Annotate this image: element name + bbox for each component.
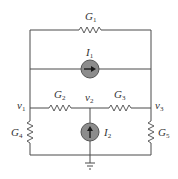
g3-label: G3 bbox=[114, 88, 126, 102]
i1-branch bbox=[30, 60, 151, 78]
i1-current-source-icon bbox=[81, 60, 99, 78]
i2-current-source-icon bbox=[81, 123, 99, 141]
v2-label: v2 bbox=[85, 91, 94, 105]
g2-label: G2 bbox=[54, 88, 66, 102]
g4-resistor-icon bbox=[27, 121, 33, 143]
g3-resistor-icon bbox=[109, 105, 131, 111]
g5-resistor-icon bbox=[148, 121, 154, 143]
g1-resistor-icon bbox=[79, 27, 101, 33]
g5-label: G5 bbox=[158, 126, 170, 140]
g4-label: G4 bbox=[11, 126, 23, 140]
circuit-diagram: G1 I1 G2 G3 v2 v1 v3 G4 G5 I2 bbox=[0, 0, 178, 179]
g1-label: G1 bbox=[85, 10, 97, 24]
g5-branch bbox=[148, 108, 154, 155]
g2-resistor-icon bbox=[49, 105, 71, 111]
v3-label: v3 bbox=[155, 99, 164, 113]
i1-label: I1 bbox=[85, 46, 94, 60]
ground-icon bbox=[85, 163, 95, 169]
g4-branch bbox=[27, 108, 33, 155]
i2-label: I2 bbox=[103, 126, 112, 140]
v1-label: v1 bbox=[17, 99, 26, 113]
